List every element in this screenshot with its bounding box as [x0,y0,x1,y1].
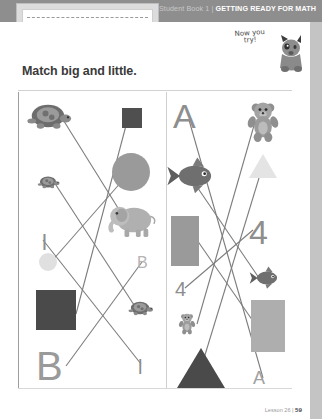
item-letter-B-big[interactable]: B [36,344,63,388]
page-edge [310,22,322,419]
item-letter-A-little[interactable]: A [253,368,265,388]
item-triangle-big[interactable] [177,348,225,388]
item-circle-big[interactable] [112,153,150,191]
header-book-label: Student Book 1 [159,4,210,13]
item-letter-l-little[interactable]: l [42,230,47,255]
item-number-4-big[interactable]: 4 [249,213,268,251]
header-strapline: GETTING READY FOR MATH [215,4,316,13]
item-bear-little[interactable] [178,314,196,335]
item-triangle-little[interactable] [249,154,277,178]
worksheet-page: Student Book 1|GETTING READY FOR MATH No… [0,0,322,419]
frame-bottom-border [18,388,292,389]
item-letter-A-big[interactable]: A [173,97,196,135]
item-circle-little[interactable] [39,253,57,271]
page-footer: Lesson 26 | 59 [265,406,302,413]
item-elephant-big[interactable] [108,207,154,237]
item-number-4-little[interactable]: 4 [175,278,186,300]
item-square-little[interactable] [122,108,142,128]
dog-mascot-icon [276,34,306,72]
item-letter-l-little-2[interactable]: l [138,356,142,378]
page-title: Match big and little. [22,64,137,78]
footer-page-number: 59 [295,406,302,413]
now-you-try-callout: Now you try! [228,28,273,46]
activity-panel-left[interactable]: l B B l [18,92,166,388]
item-letter-B-little[interactable]: B [137,254,148,271]
name-writing-line [27,17,148,18]
footer-lesson: Lesson 26 [265,407,291,413]
item-rectangle-big[interactable] [171,216,199,266]
item-turtle-big[interactable] [27,105,71,129]
item-rectangle-little[interactable] [251,300,285,352]
title-rule [18,90,292,91]
item-turtle-little-2[interactable] [128,302,153,315]
item-turtle-little[interactable] [38,176,60,188]
activity-panel-right[interactable]: A 4 4 A [167,92,292,388]
item-fish-big[interactable] [167,158,211,194]
item-square-big[interactable] [36,290,76,330]
footer-separator: | [292,407,293,413]
header-meta: Student Book 1|GETTING READY FOR MATH [159,4,316,13]
